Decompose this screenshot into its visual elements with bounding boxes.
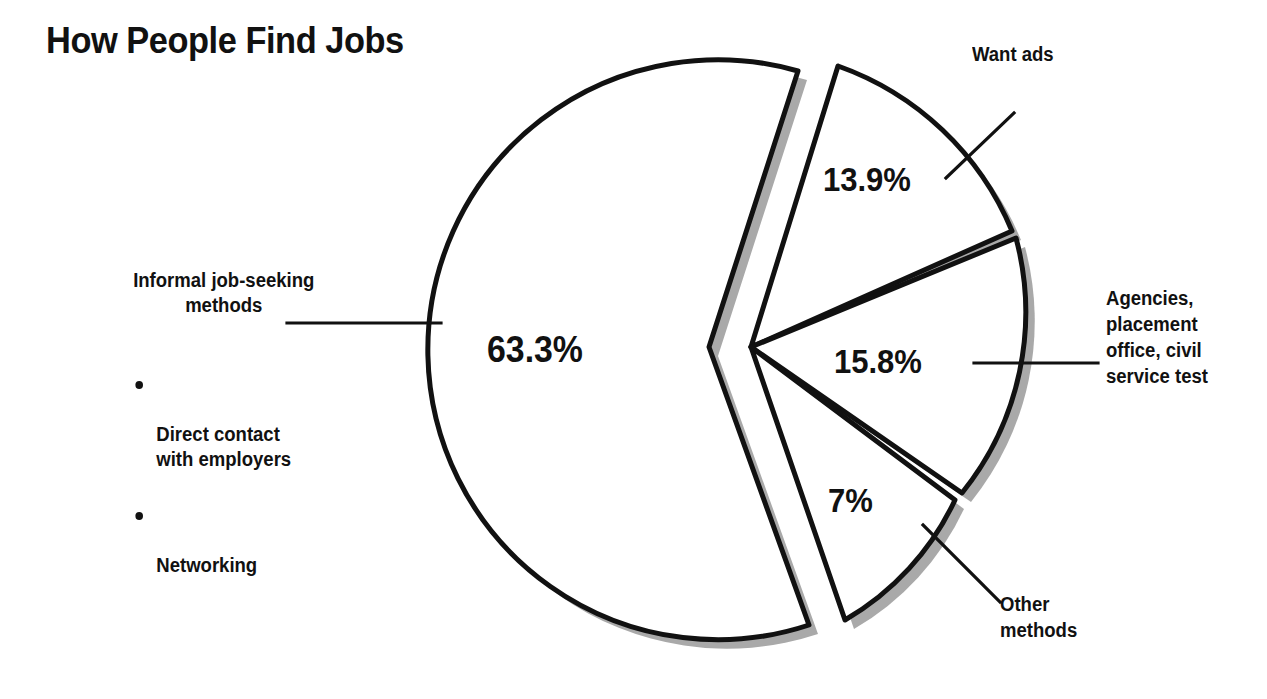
slice-value-want-ads: 13.9% [823, 163, 911, 196]
leader-line-other [923, 525, 1000, 602]
slice-value-agencies: 15.8% [834, 345, 922, 378]
callout-informal-bullet-1: Direct contact with employers [156, 423, 291, 470]
list-item: Networking [135, 503, 361, 578]
pie-chart-figure: How People Find Jobs 63.3% 13.9% 15.8% 7… [0, 0, 1267, 699]
page-title: How People Find Jobs [46, 22, 404, 59]
callout-want-ads: Want ads [972, 42, 1054, 67]
callout-informal-bullet-2: Networking [156, 554, 257, 576]
list-item: Direct contact with employers [135, 372, 361, 472]
callout-informal-bullets: Direct contact with employers Networking [86, 347, 362, 603]
callout-informal-heading: Informal job-seeking methods [86, 268, 362, 318]
slice-value-informal: 63.3% [487, 332, 583, 368]
bullet-dot-icon [135, 381, 143, 389]
bullet-dot-icon [135, 512, 143, 520]
callout-agencies: Agencies, placement office, civil servic… [1106, 285, 1208, 389]
callout-informal: Informal job-seeking methods Direct cont… [86, 243, 362, 628]
callout-other: Other methods [1000, 591, 1077, 643]
slice-value-other: 7% [828, 484, 873, 517]
